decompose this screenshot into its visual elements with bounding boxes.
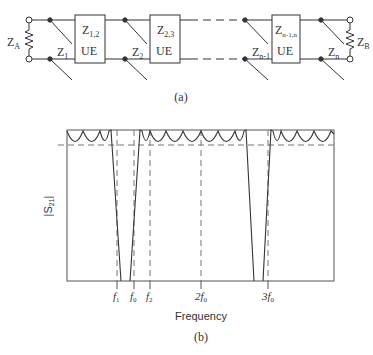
tick-label-f2: f2 [146,290,153,304]
tick-label-f1: f1 [113,290,120,304]
stub-n-lower-line [321,59,344,80]
circuit-diagram [25,15,354,80]
x-ticks [117,281,268,289]
circuit-labels: ZA ZB Z1 Z2 Zn-1 Zn Z1,2 UE Z2,3 UE Zn-1… [7,23,370,104]
frequency-markers [117,130,268,281]
ue1-type-label: UE [81,44,97,58]
load-resistor-icon [346,23,354,56]
panel-a-caption: (a) [174,90,187,104]
x-tick-labels: f1 f0 f2 2f0 3f0 [113,290,275,304]
stub1-label: Z1 [57,45,68,61]
stub-n-label: Zn [328,45,339,61]
stub-n-1-label: Zn-1 [252,45,270,61]
stub-n-1-lower-line [245,59,268,80]
tick-label-f0: f0 [130,290,137,304]
stub2-label: Z2 [132,45,143,61]
source-impedance-label: ZA [7,35,20,51]
y-axis-label: |S21| [42,196,55,217]
stub2-upper-line [125,20,147,44]
response-chart: f1 f0 f2 2f0 3f0 Frequency |S21| (b) [42,130,337,344]
load-terminal-bottom [347,56,353,62]
figure-canvas: ZA ZB Z1 Z2 Zn-1 Zn Z1,2 UE Z2,3 UE Zn-1… [0,0,373,355]
ue2-type-label: UE [156,44,172,58]
load-terminal-top [347,17,353,23]
panel-b-caption: (b) [194,330,208,344]
stub-n-upper-line [321,20,344,44]
x-axis-label: Frequency [175,310,227,322]
ue-n-type-label: UE [277,44,293,58]
load-impedance-label: ZB [357,35,370,51]
tick-label-2f0: 2f0 [195,290,208,304]
stub1-lower-line [50,59,72,80]
stub1-upper-line [50,20,72,44]
source-terminal-top [26,17,32,23]
source-resistor-icon [25,23,33,56]
stub2-lower-line [125,59,147,80]
tick-label-3f0: 3f0 [261,290,275,304]
source-terminal-bottom [26,56,32,62]
stub-n-1-upper-line [245,20,268,44]
